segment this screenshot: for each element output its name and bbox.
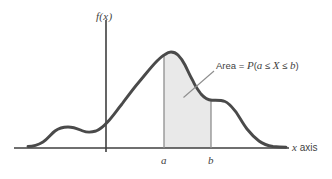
x-axis-label: x axis [292, 142, 317, 153]
x-axis-label-word: axis [297, 142, 318, 153]
area-annotation-close: ) [296, 60, 299, 71]
area-annotation-lead: Area = [216, 60, 247, 71]
tick-label-b: b [208, 155, 214, 166]
area-annotation-le1: ≤ [262, 60, 273, 71]
area-annotation-x: X [273, 59, 280, 71]
y-axis-label: f(x) [96, 11, 112, 22]
shaded-area-region [164, 52, 211, 148]
density-curve-figure: f(x) x axis a b Area = P(a ≤ X ≤ b) [0, 0, 332, 179]
tick-label-a: a [161, 155, 167, 166]
area-annotation-p: P [247, 59, 254, 71]
area-annotation: Area = P(a ≤ X ≤ b) [216, 60, 299, 71]
area-annotation-le2: ≤ [280, 60, 291, 71]
chart-canvas [0, 0, 332, 179]
